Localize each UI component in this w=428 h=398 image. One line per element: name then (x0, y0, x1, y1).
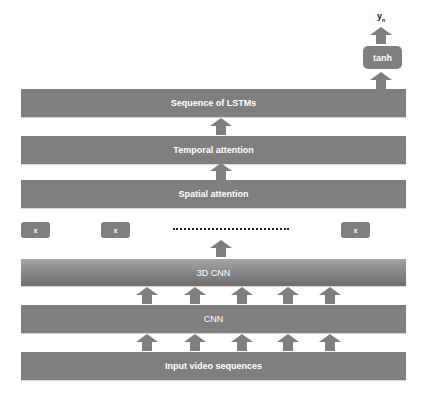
arrow-up-icon (319, 334, 341, 351)
arrow-up-icon (210, 163, 232, 180)
arrow-up-icon (136, 334, 158, 351)
layer-input-video-sequences: Input video sequences (21, 352, 406, 380)
arrow-up-icon (184, 287, 206, 304)
arrow-up-icon (277, 334, 299, 351)
arrow-up-icon (370, 72, 392, 89)
arrow-up-icon (231, 334, 253, 351)
arrow-up-icon (277, 287, 299, 304)
layer-3d-cnn: 3D CNN (21, 259, 406, 286)
layer-temporal-attention: Temporal attention (21, 136, 406, 164)
arrow-up-icon (370, 27, 392, 44)
multiply-node: x (101, 222, 130, 238)
tanh-node: tanh (363, 46, 402, 69)
arrow-up-icon (210, 240, 232, 257)
arrow-up-icon (136, 287, 158, 304)
output-label-subscript: n (382, 17, 385, 23)
arrow-up-icon (184, 334, 206, 351)
layer-lstm-sequence: Sequence of LSTMs (21, 89, 406, 117)
arrow-up-icon (210, 118, 232, 135)
ellipsis-dotted-line (173, 228, 289, 233)
arrow-up-icon (231, 287, 253, 304)
arrow-up-icon (319, 287, 341, 304)
multiply-node: x (21, 222, 50, 238)
layer-spatial-attention: Spatial attention (21, 180, 406, 208)
multiply-node: x (341, 222, 370, 238)
output-label-yn: yn (372, 11, 390, 23)
layer-cnn: CNN (21, 305, 406, 333)
